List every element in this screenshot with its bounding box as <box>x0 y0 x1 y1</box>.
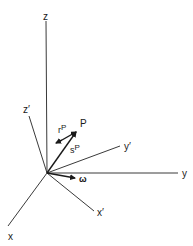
r-p-label: rP <box>58 123 66 135</box>
x-prime-axis-label: x′ <box>97 207 104 218</box>
y-prime-axis-label: y′ <box>124 141 131 152</box>
s-superscript: P <box>75 143 80 152</box>
r-p-vector-arrow <box>56 140 62 143</box>
z-prime-axis <box>29 116 47 173</box>
x-axis-label: x <box>8 231 13 242</box>
x-axis <box>8 173 47 226</box>
s-p-label: sP <box>70 143 80 155</box>
y-axis-label: y <box>182 168 187 179</box>
z-axis <box>46 21 47 173</box>
r-superscript: P <box>61 123 66 132</box>
omega-vector-arrow <box>47 173 75 178</box>
z-axis-label: z <box>43 11 48 22</box>
omega-label: ω <box>79 174 87 184</box>
coordinate-diagram: z y x z′ y′ x′ rP sP ω P <box>0 0 193 246</box>
x-prime-axis <box>47 173 94 211</box>
point-p-label: P <box>80 118 87 129</box>
z-prime-axis-label: z′ <box>23 104 30 115</box>
y-prime-axis <box>47 146 120 173</box>
